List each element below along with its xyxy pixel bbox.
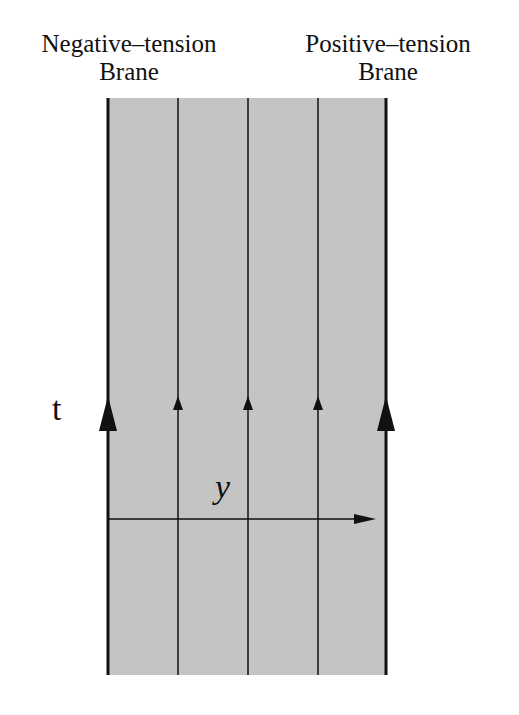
time-axis-label: t bbox=[52, 390, 61, 428]
brane-diagram bbox=[0, 0, 519, 715]
space-axis-label: y bbox=[215, 468, 230, 506]
bulk-region bbox=[108, 98, 386, 675]
